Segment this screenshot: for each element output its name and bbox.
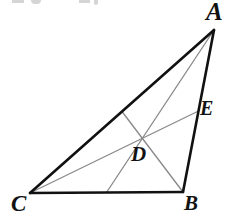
triangle-diagram-canvas <box>0 0 228 217</box>
crop-artifact-mark <box>79 0 90 3</box>
point-label-B: B <box>184 193 198 214</box>
crop-artifact-mark <box>12 0 24 3</box>
point-label-E: E <box>200 98 213 118</box>
point-label-A: A <box>206 0 222 24</box>
crop-artifact-mark <box>94 0 98 5</box>
point-label-C: C <box>11 192 26 215</box>
geometry-figure: A B C D E <box>0 0 228 217</box>
side-CB <box>30 192 183 193</box>
point-label-D: D <box>131 144 146 165</box>
